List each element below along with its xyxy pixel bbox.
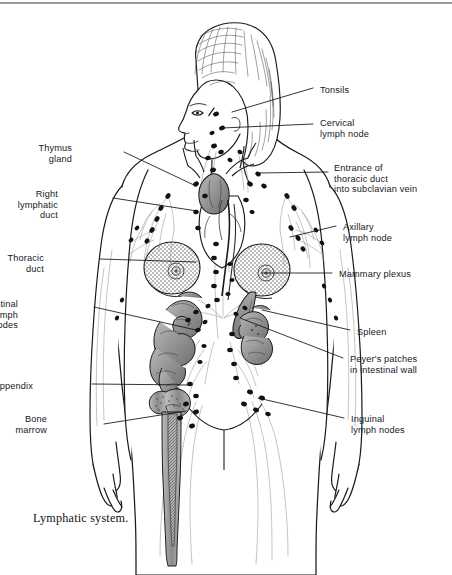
label-thoracic-duct: Thoracic duct xyxy=(8,253,44,274)
label-inguinal-lymph-nodes: Inguinal lymph nodes xyxy=(351,414,405,435)
label-bone-marrow: Bone marrow xyxy=(15,414,47,435)
label-cervical-lymph-node: Cervical lymph node xyxy=(320,118,369,139)
label-peyers-patches: Peyer's patches in intestinal wall xyxy=(350,354,417,375)
label-spleen: Spleen xyxy=(357,327,387,338)
label-intestinal-lymph-nodes: Intestinal lymph nodes xyxy=(0,299,18,331)
label-right-lymphatic-duct: Right lymphatic duct xyxy=(18,189,58,221)
label-entrance-thoracic-duct: Entrance of thoracic duct into subclavia… xyxy=(334,163,417,195)
label-appendix: Appendix xyxy=(0,381,33,392)
figure-caption: Lymphatic system. xyxy=(33,511,128,526)
lymphatic-system-figure xyxy=(0,0,452,575)
label-tonsils: Tonsils xyxy=(320,85,349,96)
illustration-page: Thymus glandRight lymphatic ductThoracic… xyxy=(0,0,452,575)
label-axillary-lymph-node: Axillary lymph node xyxy=(343,222,392,243)
label-mammary-plexus: Mammary plexus xyxy=(339,269,411,280)
label-thymus-gland: Thymus gland xyxy=(38,143,72,164)
